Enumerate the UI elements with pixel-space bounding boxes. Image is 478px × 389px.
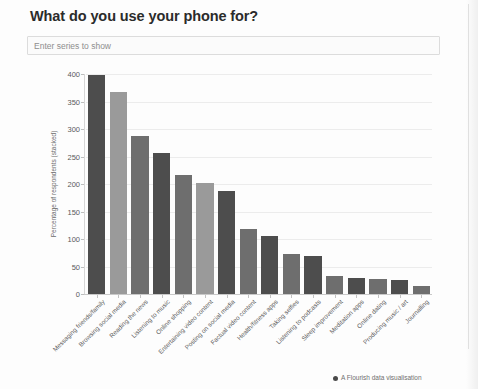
chart-title: What do you use your phone for? (30, 8, 258, 24)
y-axis-tick-mark (81, 129, 84, 130)
bar[interactable] (88, 75, 105, 294)
y-axis-tick-label: 100 (67, 235, 80, 244)
series-filter-input[interactable]: Enter series to show (27, 36, 440, 55)
series-filter-placeholder: Enter series to show (34, 41, 111, 51)
bar[interactable] (110, 92, 127, 294)
y-axis-tick-mark (81, 239, 84, 240)
y-axis-tick-mark (81, 74, 84, 75)
flourish-credit-label: A Flourish data visualisation (341, 374, 422, 381)
y-axis-tick-label: 0 (76, 290, 80, 299)
y-axis-tick-mark (81, 267, 84, 268)
flourish-chart-visualisation: What do you use your phone for? Enter se… (0, 0, 466, 389)
y-axis-tick-label: 300 (67, 125, 80, 134)
y-axis-tick-label: 400 (67, 70, 80, 79)
y-axis-tick-label: 350 (67, 97, 80, 106)
y-axis-line (84, 74, 85, 295)
y-axis-tick-label: 200 (67, 180, 80, 189)
y-axis-tick-label: 50 (72, 262, 80, 271)
y-axis-tick-mark (81, 294, 84, 295)
y-axis-tick-label: 250 (67, 152, 80, 161)
x-axis-tick-label-text: Producing music / art (361, 298, 408, 345)
y-axis-tick-label: 150 (67, 207, 80, 216)
y-axis-tick-mark (81, 102, 84, 103)
y-axis-tick-mark (81, 212, 84, 213)
flourish-credit[interactable]: A Flourish data visualisation (333, 374, 422, 381)
y-axis-tick-mark (81, 184, 84, 185)
y-axis-tick-mark (81, 157, 84, 158)
flourish-dot-icon (333, 376, 338, 381)
y-axis-label: Percentage of respondents (stacked) (49, 74, 59, 294)
page-edge-rule (468, 4, 469, 349)
